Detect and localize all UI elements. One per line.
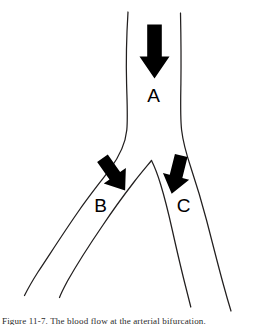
arrow-down-left-icon	[91, 150, 136, 198]
label-b: B	[94, 195, 107, 216]
arrow-down-icon	[140, 25, 170, 79]
flow-arrow-a-icon	[140, 25, 170, 79]
left-inner-wall-path	[60, 161, 152, 298]
label-a: A	[147, 85, 160, 106]
label-c: C	[177, 195, 191, 216]
bifurcation-diagram: A B C	[0, 0, 253, 325]
arrow-down-right-icon	[159, 152, 195, 197]
flow-arrow-b-icon	[91, 150, 136, 198]
flow-arrow-c-icon	[159, 152, 195, 197]
figure-caption: Figure 11-7. The blood flow at the arter…	[2, 318, 206, 325]
figure-root: A B C Figure 11-7. The blood flow at the…	[0, 0, 253, 325]
left-outer-wall-path	[25, 12, 129, 296]
right-outer-wall-path	[181, 13, 232, 311]
figure-caption-strip: Figure 11-7. The blood flow at the arter…	[0, 318, 253, 325]
